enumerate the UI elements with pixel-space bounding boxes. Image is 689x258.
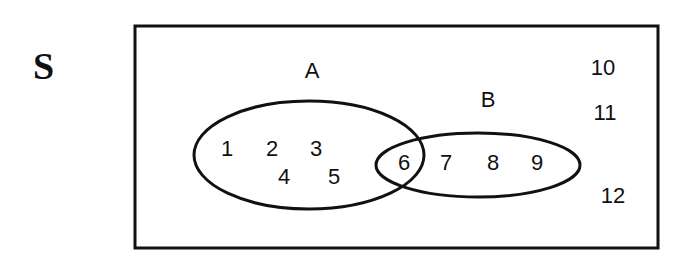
element-1: 1 (221, 136, 233, 161)
element-2: 2 (266, 136, 278, 161)
element-3: 3 (310, 136, 322, 161)
element-4: 4 (278, 164, 290, 189)
set-a-label: A (305, 58, 320, 83)
element-6: 6 (398, 150, 410, 175)
element-9: 9 (531, 150, 543, 175)
element-12: 12 (601, 183, 625, 208)
element-10: 10 (591, 55, 615, 80)
element-5: 5 (328, 164, 340, 189)
element-8: 8 (487, 150, 499, 175)
set-b-label: B (481, 87, 496, 112)
element-7: 7 (440, 150, 452, 175)
element-11: 11 (594, 100, 617, 125)
venn-diagram: A B 1 2 3 4 5 6 7 8 9 10 11 12 (0, 0, 689, 258)
universe-rectangle (135, 26, 658, 248)
